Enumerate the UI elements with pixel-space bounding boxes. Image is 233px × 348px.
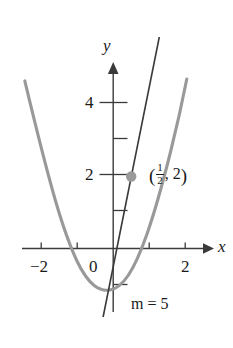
fraction-denominator: 2 — [156, 174, 164, 187]
fraction-one-half: 12 — [156, 162, 164, 186]
coordinate-comma: , — [165, 165, 173, 182]
x-axis-arrow-icon — [203, 243, 214, 254]
y-tick-label-4: 4 — [85, 94, 94, 111]
y-tick-label-2: 2 — [85, 166, 94, 183]
x-tick-label--2: −2 — [30, 258, 48, 275]
coordinate-y-value: 2 — [173, 165, 181, 182]
x-axis-label: x — [218, 238, 226, 255]
y-axis-arrow-icon — [108, 62, 119, 74]
graph-figure — [0, 0, 233, 348]
slope-annotation-label: m = 5 — [131, 296, 168, 312]
paren-close: ) — [181, 165, 187, 186]
point-coordinate-label: (12, 2) — [149, 163, 187, 187]
y-axis-label: y — [103, 37, 111, 54]
tangency-point-marker — [126, 171, 136, 181]
paren-open: ( — [149, 165, 155, 186]
fraction-numerator: 1 — [156, 162, 164, 174]
x-tick-label-0: 0 — [89, 258, 98, 275]
x-tick-label-2: 2 — [181, 258, 190, 275]
